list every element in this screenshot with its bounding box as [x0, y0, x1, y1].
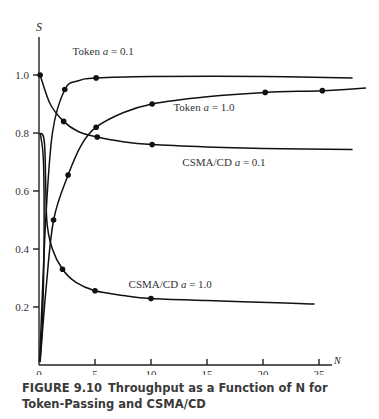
data-point-csma-cd-a-0-1 — [61, 119, 67, 125]
label-token-a-0-1: Token a = 0.1 — [73, 45, 134, 57]
ticks: 05101520250.20.40.60.81.0 — [15, 69, 325, 375]
x-tick-label: 10 — [146, 368, 158, 375]
data-point-token-a-0-1 — [62, 87, 68, 93]
data-point-csma-cd-a-1-0 — [148, 296, 154, 302]
throughput-chart: S N 05101520250.20.40.60.81.0 Token a = … — [0, 0, 379, 375]
axes: S N — [36, 20, 342, 366]
data-point-token-a-1-0 — [262, 90, 268, 96]
x-tick-label: 25 — [314, 368, 326, 375]
label-token-a-1-0: Token a = 1.0 — [173, 101, 235, 113]
data-point-token-a-1-0 — [320, 88, 326, 94]
figure-caption: FIGURE 9.10Throughput as a Function of N… — [22, 380, 372, 412]
y-axis-title: S — [36, 20, 42, 34]
data-point-token-a-1-0 — [51, 217, 57, 223]
x-axis-title: N — [333, 355, 342, 366]
data-point-token-a-1-0 — [149, 101, 155, 107]
curve-token-a-0-1 — [40, 76, 353, 362]
data-point-csma-cd-a-0-1 — [94, 134, 100, 140]
data-point-token-a-0-1 — [93, 75, 99, 81]
data-point-csma-cd-a-1-0 — [60, 267, 66, 273]
curves — [40, 75, 366, 362]
y-tick-label: 1.0 — [15, 69, 29, 81]
x-tick-label: 20 — [258, 368, 270, 375]
series-labels: Token a = 0.1Token a = 1.0CSMA/CD a = 0.… — [73, 45, 266, 290]
y-tick-label: 0.4 — [15, 243, 29, 255]
figure-number: FIGURE 9.10 — [22, 381, 102, 395]
label-csma-cd-a-1-0: CSMA/CD a = 1.0 — [129, 278, 213, 290]
y-tick-label: 0.8 — [15, 127, 29, 139]
label-csma-cd-a-0-1: CSMA/CD a = 0.1 — [182, 156, 265, 168]
data-point-csma-cd-a-0-1 — [149, 142, 155, 148]
x-tick-label: 15 — [202, 368, 214, 375]
y-tick-label: 0.2 — [15, 301, 29, 313]
data-point-token-a-1-0 — [65, 172, 71, 178]
data-point-csma-cd-a-1-0 — [92, 288, 98, 294]
x-tick-label: 0 — [36, 368, 42, 375]
curve-token-a-1-0 — [40, 88, 366, 362]
data-point-token-a-1-0 — [93, 124, 99, 130]
x-tick-label: 5 — [92, 368, 98, 375]
data-point-csma-cd-a-0-1 — [37, 72, 43, 78]
y-tick-label: 0.6 — [15, 185, 29, 197]
